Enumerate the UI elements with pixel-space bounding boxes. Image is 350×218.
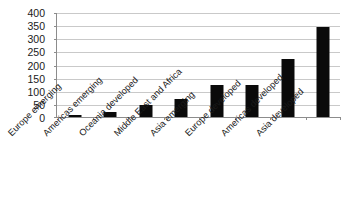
y-tick-label-350: 350 bbox=[27, 21, 45, 31]
x-tick-8 bbox=[340, 117, 341, 120]
y-tick-label-400: 400 bbox=[27, 8, 45, 18]
bar-slot-asia-developed bbox=[306, 13, 342, 117]
x-tick-7 bbox=[306, 117, 307, 120]
y-tick-label-200: 200 bbox=[27, 61, 45, 71]
bar-asia-developed[interactable] bbox=[317, 27, 330, 117]
plot-area bbox=[56, 13, 340, 118]
bar-chart: 400 350 300 250 200 150 100 50 0 bbox=[0, 0, 350, 218]
y-axis: 400 350 300 250 200 150 100 50 0 bbox=[0, 0, 52, 218]
y-tick-label-150: 150 bbox=[27, 74, 45, 84]
y-tick-label-0: 0 bbox=[39, 113, 45, 123]
y-tick-label-250: 250 bbox=[27, 47, 45, 57]
y-tick-label-300: 300 bbox=[27, 34, 45, 44]
